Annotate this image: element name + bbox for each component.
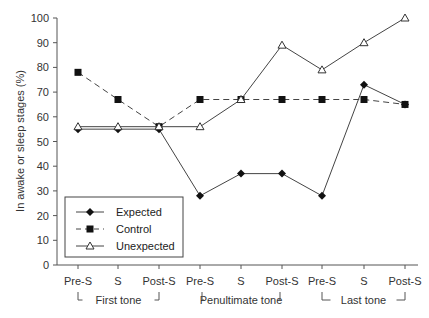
diamond-marker	[196, 192, 204, 200]
y-axis: 0102030405060708090100	[31, 12, 57, 271]
legend-label: Expected	[116, 206, 162, 218]
line-chart: 0102030405060708090100 Pre-SSPost-SPre-S…	[0, 0, 429, 318]
diamond-marker	[278, 170, 286, 178]
square-marker	[87, 226, 94, 233]
triangle-marker	[318, 66, 326, 73]
y-tick-label: 0	[43, 259, 49, 271]
x-tick-label: Post-S	[265, 275, 298, 287]
x-tick-label: S	[360, 275, 367, 287]
diamond-marker	[318, 192, 326, 200]
y-tick-label: 100	[31, 12, 49, 24]
y-tick-label: 50	[37, 136, 49, 148]
x-group-label: First tone	[96, 294, 142, 306]
x-tick-label: S	[237, 275, 244, 287]
x-tick-label: Post-S	[142, 275, 175, 287]
y-tick-label: 80	[37, 61, 49, 73]
y-axis-title: In awake or sleep stages (%)	[14, 70, 26, 212]
y-tick-label: 20	[37, 210, 49, 222]
diamond-marker	[360, 81, 368, 89]
y-tick-label: 90	[37, 37, 49, 49]
series-layer	[74, 14, 409, 200]
square-marker	[75, 69, 82, 76]
x-axis: Pre-SSPost-SPre-SSPost-SPre-SSPost-SFirs…	[57, 265, 422, 306]
triangle-marker	[401, 14, 409, 21]
x-tick-label: Pre-S	[186, 275, 214, 287]
x-group-label: Penultimate tone	[200, 294, 283, 306]
legend-label: Unexpected	[116, 240, 175, 252]
x-tick-label: Post-S	[388, 275, 421, 287]
x-group-bracket: Last tone	[322, 292, 405, 306]
x-group-label: Last tone	[341, 294, 386, 306]
triangle-marker	[196, 123, 204, 130]
legend-label: Control	[116, 223, 151, 235]
y-tick-label: 40	[37, 160, 49, 172]
y-tick-label: 60	[37, 111, 49, 123]
series-unexpected	[74, 14, 409, 130]
square-marker	[279, 96, 286, 103]
x-tick-label: Pre-S	[64, 275, 92, 287]
x-tick-label: S	[114, 275, 121, 287]
square-marker	[361, 96, 368, 103]
x-group-bracket: First tone	[78, 292, 159, 306]
diamond-marker	[237, 170, 245, 178]
square-marker	[197, 96, 204, 103]
y-tick-label: 10	[37, 234, 49, 246]
legend: ExpectedControlUnexpected	[65, 197, 183, 257]
square-marker	[115, 96, 122, 103]
square-marker	[402, 101, 409, 108]
y-tick-label: 30	[37, 185, 49, 197]
y-tick-label: 70	[37, 86, 49, 98]
triangle-marker	[74, 123, 82, 130]
triangle-marker	[360, 39, 368, 46]
square-marker	[319, 96, 326, 103]
x-group-bracket: Penultimate tone	[200, 292, 283, 306]
x-tick-label: Pre-S	[308, 275, 336, 287]
triangle-marker	[278, 41, 286, 48]
triangle-marker	[114, 123, 122, 130]
